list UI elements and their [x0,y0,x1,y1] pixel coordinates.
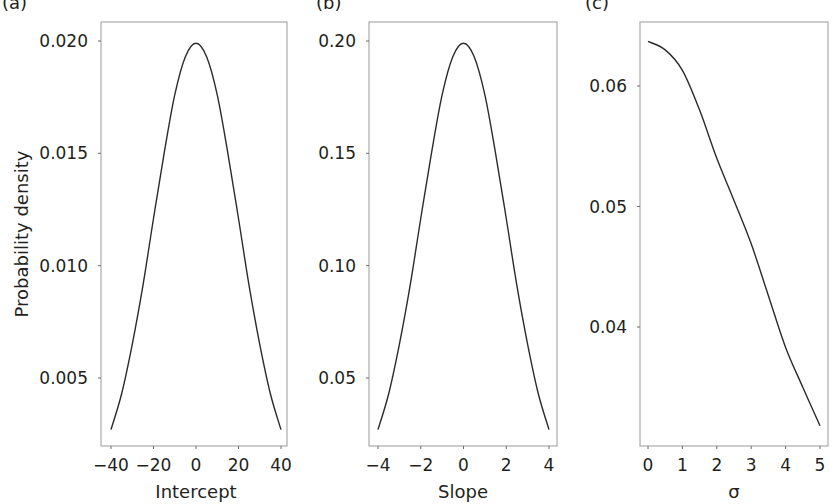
x-ticks-b: −4−2024 [365,446,554,475]
x-tick-label: −4 [365,455,390,475]
y-tick-label: 0.15 [318,143,356,163]
y-ticks-a: 0.0050.0100.0150.020 [39,31,101,388]
y-tick-label: 0.05 [318,368,356,388]
x-tick-label: 3 [746,455,757,475]
panel-b: (b) 0.050.100.150.20 −4−2024 Slope [316,0,557,502]
y-axis-label: Probability density [11,150,32,317]
x-tick-label: 4 [780,455,791,475]
x-axis-label-c: σ [728,481,739,502]
x-tick-label: 2 [501,455,512,475]
y-ticks-b: 0.050.100.150.20 [318,31,369,388]
y-tick-label: 0.005 [39,368,88,388]
plot-frame-a [101,22,287,446]
density-curve-b [378,43,549,429]
y-tick-label: 0.015 [39,143,88,163]
x-axis-label-a: Intercept [155,481,236,502]
y-tick-label: 0.10 [318,256,356,276]
figure: Probability density (a) 0.0050.0100.0150… [0,0,835,504]
y-tick-label: 0.020 [39,31,88,51]
x-tick-label: 5 [815,455,826,475]
panel-label-b: (b) [316,0,341,13]
x-ticks-c: 012345 [643,446,826,475]
y-tick-label: 0.20 [318,31,356,51]
x-tick-label: 0 [458,455,469,475]
x-ticks-a: −40−2002040 [93,446,292,475]
panel-c: (c) 0.040.050.06 012345 σ [585,0,828,502]
y-tick-label: 0.04 [589,317,627,337]
y-tick-label: 0.05 [589,197,627,217]
x-tick-label: 0 [643,455,654,475]
plot-frame-b [369,22,557,446]
x-tick-label: 20 [228,455,250,475]
x-tick-label: −2 [408,455,433,475]
x-tick-label: −40 [93,455,129,475]
x-axis-label-b: Slope [438,481,488,502]
x-tick-label: 1 [677,455,688,475]
y-tick-label: 0.06 [589,76,627,96]
x-tick-label: 4 [544,455,555,475]
x-tick-label: 2 [711,455,722,475]
panel-a: (a) 0.0050.0100.0150.020 −40−2002040 Int… [2,0,292,502]
panel-label-c: (c) [585,0,609,13]
density-curve-a [111,43,281,429]
density-curve-c [648,41,820,425]
x-tick-label: 40 [270,455,292,475]
y-ticks-c: 0.040.050.06 [589,76,640,337]
y-tick-label: 0.010 [39,256,88,276]
plot-frame-c [640,22,828,446]
x-tick-label: 0 [191,455,202,475]
panel-label-a: (a) [2,0,27,13]
x-tick-label: −20 [136,455,172,475]
